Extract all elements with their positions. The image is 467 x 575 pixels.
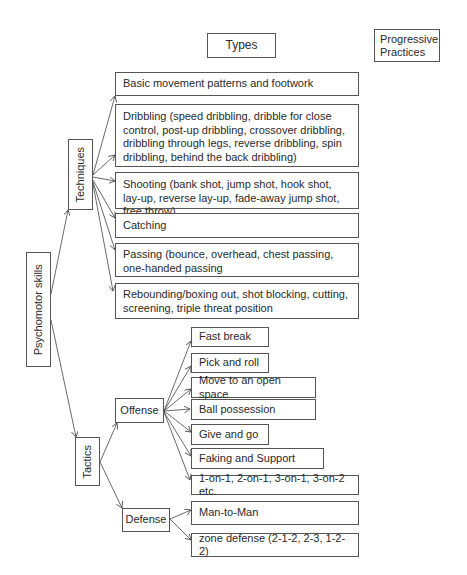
tactics-label: Tactics [81, 445, 95, 479]
technique-item: Catching [115, 213, 359, 238]
progressive-label-line2: Practices [380, 46, 434, 59]
defense-item-text: zone defense (2-1-2, 2-3, 1-2-2) [199, 532, 351, 559]
offense-item: Move to an open space [191, 377, 316, 398]
defense-item: zone defense (2-1-2, 2-3, 1-2-2) [191, 533, 359, 557]
offense-item-text: Faking and Support [199, 452, 295, 466]
technique-item: Rebounding/boxing out, shot blocking, cu… [115, 283, 359, 319]
arrow-tech-basic [93, 96, 115, 175]
offense-item: Faking and Support [191, 448, 324, 469]
offense-item-text: 1-on-1, 2-on-1, 3-on-1, 3-on-2 etc. [199, 472, 351, 499]
technique-item-text: Basic movement patterns and footwork [123, 77, 313, 91]
offense-item: Pick and roll [191, 353, 269, 373]
offense-node: Offense [115, 398, 164, 423]
technique-item-text: Dribbling (speed dribbling, dribble for … [123, 110, 345, 163]
arrow-defense-man [170, 510, 191, 519]
technique-item: Passing (bounce, overhead, chest passing… [115, 243, 359, 277]
types-header: Types [207, 33, 276, 58]
techniques-label: Techniques [74, 147, 88, 203]
types-header-label: Types [225, 39, 257, 53]
progressive-label-line1: Progressive [380, 33, 434, 46]
offense-item-text: Ball possession [199, 403, 275, 417]
root-label: Psychomotor skills [32, 264, 46, 355]
offense-item: 1-on-1, 2-on-1, 3-on-1, 3-on-2 etc. [191, 475, 359, 495]
technique-item: Shooting (bank shot, jump shot, hook sho… [115, 172, 359, 209]
offense-item: Give and go [191, 424, 269, 445]
defense-label: Defense [126, 513, 167, 527]
arrow-root-techniques [51, 210, 68, 294]
progressive-practices-header: Progressive Practices [374, 29, 440, 62]
tactics-node: Tactics [75, 437, 100, 486]
arrow-offense-1on1 [164, 412, 190, 480]
arrow-tech-rebounding [93, 184, 113, 291]
arrow-tech-dribbling [93, 155, 115, 175]
arrow-tech-catching [93, 180, 115, 218]
arrow-offense-faking [164, 412, 191, 456]
offense-item: Ball possession [191, 399, 316, 420]
technique-item: Basic movement patterns and footwork [115, 72, 359, 96]
arrow-offense-pickroll [164, 366, 191, 411]
technique-item-text: Rebounding/boxing out, shot blocking, cu… [123, 288, 348, 314]
technique-item: Dribbling (speed dribbling, dribble for … [115, 104, 359, 167]
arrow-defense-zone [170, 519, 191, 540]
technique-item-text: Catching [123, 219, 166, 233]
defense-node: Defense [122, 508, 170, 532]
arrow-tech-shooting [93, 177, 115, 181]
offense-label: Offense [120, 404, 158, 418]
root-psychomotor-skills: Psychomotor skills [26, 252, 51, 367]
offense-item-text: Pick and roll [199, 356, 259, 370]
defense-item: Man-to-Man [191, 501, 359, 525]
offense-item: Fast break [191, 327, 269, 347]
defense-item-text: Man-to-Man [199, 506, 258, 520]
arrow-offense-ball [164, 409, 190, 411]
arrow-tech-passing [93, 182, 115, 250]
arrow-tactics-offense [100, 423, 117, 462]
techniques-node: Techniques [68, 139, 93, 210]
technique-item-text: Passing (bounce, overhead, chest passing… [123, 248, 333, 274]
offense-item-text: Fast break [199, 330, 251, 344]
offense-item-text: Give and go [199, 428, 258, 442]
arrow-tactics-defense [100, 462, 122, 508]
offense-item-text: Move to an open space [199, 374, 308, 401]
arrow-root-tactics [51, 320, 76, 437]
